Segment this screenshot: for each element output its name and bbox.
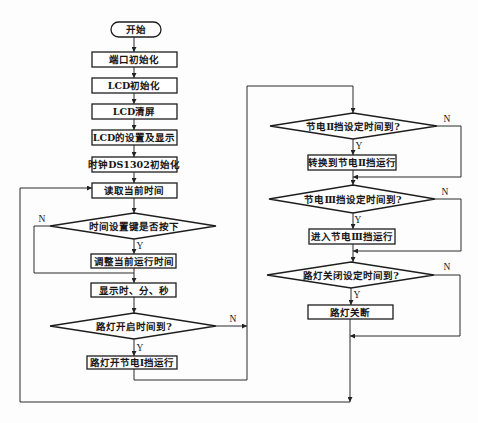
node-read-time: 读取当前时间 xyxy=(92,183,177,198)
node-label: 调整当前运行时间 xyxy=(94,256,174,267)
node-label: 读取当前时间 xyxy=(104,185,164,196)
node-label: 显示时、分、秒 xyxy=(99,285,169,296)
connector xyxy=(134,369,247,380)
node-label: 路灯关断 xyxy=(330,307,370,318)
node-label: 进入节电Ⅲ挡运行 xyxy=(311,231,393,242)
branch-label-no: N xyxy=(444,262,451,272)
branch-label-no: N xyxy=(442,187,449,197)
node-light-on-time: 路灯开启时间到? xyxy=(50,313,216,339)
node-label: 路灯开启时间到? xyxy=(96,321,172,332)
branch-label-yes: Y xyxy=(356,141,363,151)
node-enter-saving3: 进入节电Ⅲ挡运行 xyxy=(309,229,395,244)
node-label: 节电Ⅲ挡设定时间到? xyxy=(304,194,402,205)
node-show-hms: 显示时、分、秒 xyxy=(91,283,176,297)
node-ds1302-init: 时钟DS1302初始化 xyxy=(88,157,180,172)
node-switch-saving2: 转换到节电Ⅱ挡运行 xyxy=(308,155,396,170)
node-lcd-init: LCD初始化 xyxy=(92,78,177,93)
node-label: LCD的设置及显示 xyxy=(93,132,175,143)
node-label: LCD清屏 xyxy=(113,106,155,117)
node-label: 转换到节电Ⅱ挡运行 xyxy=(308,157,396,168)
node-light-off: 路灯关断 xyxy=(308,305,393,319)
node-label: 端口初始化 xyxy=(109,54,159,65)
node-label: LCD初始化 xyxy=(108,80,160,91)
branch-label-no: N xyxy=(230,314,237,324)
branch-label-no: N xyxy=(444,114,451,124)
node-lcd-clear: LCD清屏 xyxy=(92,104,177,119)
flowchart-diagram: 开始 端口初始化 LCD初始化 LCD清屏 LCD的设置及显示 时钟DS1302… xyxy=(0,0,478,423)
node-label: 节电Ⅱ挡设定时间到? xyxy=(306,121,400,132)
node-time-key-pressed: 时间设置键是否按下 xyxy=(50,213,216,239)
branch-label-yes: Y xyxy=(137,343,144,353)
branch-label-yes: Y xyxy=(354,290,361,300)
node-label: 时钟DS1302初始化 xyxy=(88,159,180,170)
node-label: 路灯开节电Ⅰ挡运行 xyxy=(90,357,174,368)
node-saving2-time: 节电Ⅱ挡设定时间到? xyxy=(270,113,437,139)
connector-loop-back xyxy=(20,188,350,402)
node-light-on-saving1: 路灯开节电Ⅰ挡运行 xyxy=(87,356,177,369)
branch-label-no: N xyxy=(39,214,46,224)
branch-label-yes: Y xyxy=(355,215,362,225)
node-label: 时间设置键是否按下 xyxy=(89,221,179,232)
node-adjust-time: 调整当前运行时间 xyxy=(91,254,176,268)
node-label: 路灯关闭设定时间到? xyxy=(303,270,399,281)
branch-label-yes: Y xyxy=(137,241,144,251)
node-label: 开始 xyxy=(126,24,146,35)
node-port-init: 端口初始化 xyxy=(92,52,177,67)
node-lcd-setup-display: LCD的设置及显示 xyxy=(92,130,177,145)
node-saving3-time: 节电Ⅲ挡设定时间到? xyxy=(269,185,435,213)
node-light-off-time: 路灯关闭设定时间到? xyxy=(267,262,434,288)
node-start: 开始 xyxy=(111,22,161,37)
